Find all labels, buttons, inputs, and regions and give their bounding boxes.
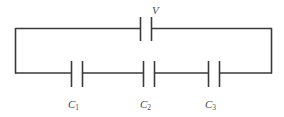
capacitor-c1-symbol bbox=[72, 61, 83, 87]
capacitor-c1-label-subscript: 1 bbox=[75, 103, 79, 112]
circuit-diagram-figure: V C1 C2 C3 bbox=[0, 0, 284, 117]
capacitor-c3-label-subscript: 3 bbox=[212, 103, 216, 112]
capacitor-c1-label: C1 bbox=[68, 98, 79, 112]
voltage-source-label: V bbox=[152, 4, 160, 16]
capacitor-c3-label: C3 bbox=[205, 98, 216, 112]
circuit-schematic-svg: V C1 C2 C3 bbox=[0, 0, 284, 117]
capacitor-c2-symbol bbox=[144, 61, 155, 87]
voltage-source-symbol bbox=[141, 17, 152, 41]
capacitor-c3-symbol bbox=[209, 61, 220, 87]
capacitor-c2-label-subscript: 2 bbox=[147, 103, 151, 112]
capacitor-c2-label: C2 bbox=[140, 98, 151, 112]
